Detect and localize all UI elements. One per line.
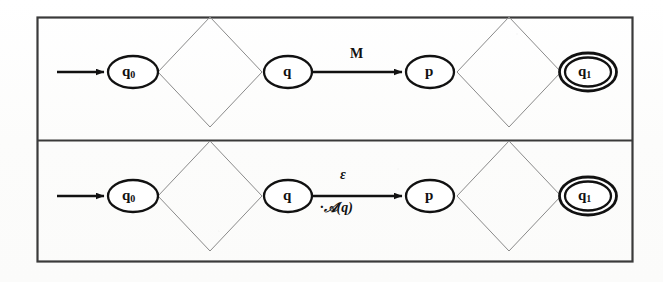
- top-diamond-right: [457, 17, 561, 127]
- top-state-q-label: q: [283, 64, 291, 79]
- bottom-diamond-left: [158, 141, 262, 251]
- bottom-state-q0-label: q0: [122, 188, 135, 204]
- bottom-state-q-label: q: [283, 188, 291, 203]
- bottom-edge-label-epsilon: ε: [340, 168, 346, 182]
- top-state-q0-label: q0: [122, 64, 135, 80]
- top-edge-label-m: M: [350, 47, 363, 61]
- bottom-state-q1-label: q1: [578, 188, 591, 204]
- top-state-q1-label: q1: [578, 64, 591, 80]
- diagram-canvas: [0, 0, 663, 282]
- bottom-diamond-right: [457, 141, 561, 251]
- bottom-state-p-label: p: [425, 188, 433, 203]
- bottom-edge-label-automaton-of-q: ·𝒜(q): [320, 201, 353, 215]
- top-diamond-left: [158, 17, 262, 127]
- top-state-p-label: p: [425, 64, 433, 79]
- bottom-panel: [57, 141, 617, 251]
- top-panel: [57, 17, 617, 127]
- frame-outer: [38, 18, 633, 262]
- figure-root: q0 q p q1 M q0 q p q1 ε ·𝒜(q): [0, 0, 663, 282]
